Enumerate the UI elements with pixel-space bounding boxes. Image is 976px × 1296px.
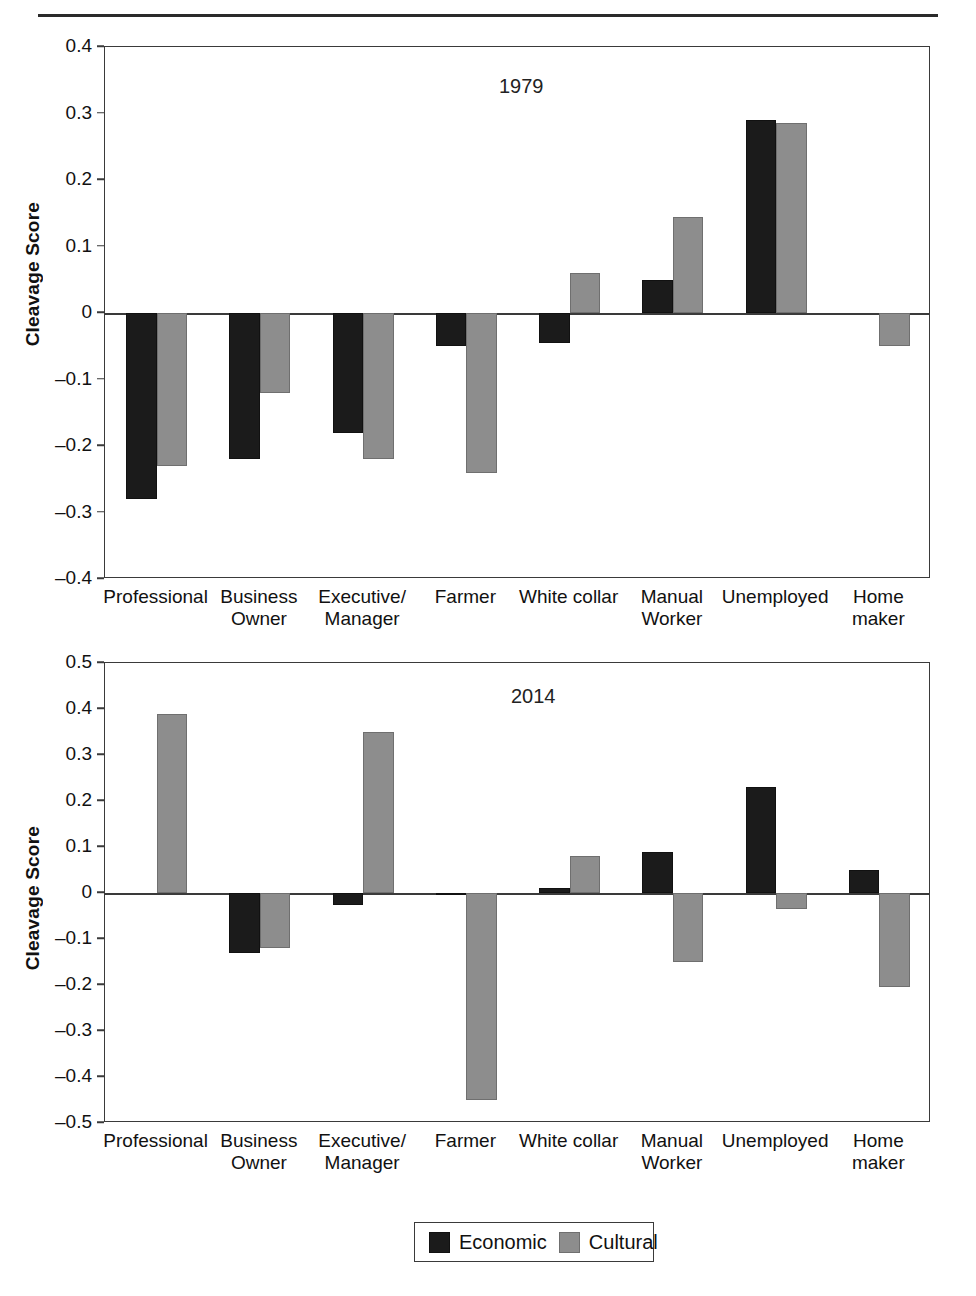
- y-tick-label: 0.1: [0, 835, 92, 857]
- y-tick-mark: [97, 983, 104, 985]
- x-axis-category-label: Home maker: [814, 1130, 942, 1175]
- y-axis-label-1979: Cleavage Score: [22, 202, 44, 346]
- y-tick-mark: [97, 753, 104, 755]
- bar-cultural: [673, 893, 703, 962]
- bar-cultural: [466, 893, 496, 1100]
- plot-area-2014: 2014: [104, 662, 930, 1122]
- bar-cultural: [570, 856, 600, 893]
- bar-economic: [436, 313, 466, 346]
- y-tick-label: –0.3: [0, 1019, 92, 1041]
- bar-cultural: [466, 313, 496, 473]
- bar-economic: [849, 870, 879, 893]
- bar-economic: [333, 893, 363, 905]
- y-tick-label: 0.4: [0, 35, 92, 57]
- y-tick-mark: [97, 937, 104, 939]
- y-tick-mark: [97, 112, 104, 114]
- bar-cultural: [157, 313, 187, 466]
- bar-cultural: [157, 714, 187, 893]
- figure-page: Cleavage Score 1979 0.40.30.20.10–0.1–0.…: [0, 0, 976, 1296]
- legend: Economic Cultural: [414, 1222, 654, 1262]
- bars-container-1979: [105, 47, 929, 577]
- y-tick-label: 0: [0, 301, 92, 323]
- legend-swatch-economic-icon: [429, 1232, 450, 1253]
- chart-panel-2014: Cleavage Score 2014 0.50.40.30.20.10–0.1…: [0, 650, 976, 1230]
- y-tick-mark: [97, 378, 104, 380]
- bar-cultural: [776, 123, 806, 313]
- bar-economic: [436, 893, 466, 895]
- y-tick-label: –0.1: [0, 368, 92, 390]
- y-tick-label: 0.2: [0, 168, 92, 190]
- y-tick-label: –0.3: [0, 501, 92, 523]
- bar-cultural: [363, 732, 393, 893]
- bar-cultural: [363, 313, 393, 459]
- y-tick-label: –0.4: [0, 1065, 92, 1087]
- bar-cultural: [879, 313, 909, 346]
- bar-economic: [642, 852, 672, 893]
- bar-economic: [539, 888, 569, 893]
- y-tick-label: 0.3: [0, 743, 92, 765]
- bar-cultural: [776, 893, 806, 909]
- y-tick-mark: [97, 845, 104, 847]
- y-tick-mark: [97, 311, 104, 313]
- y-tick-label: –0.2: [0, 973, 92, 995]
- page-top-rule: [38, 14, 938, 17]
- legend-label-cultural: Cultural: [589, 1231, 658, 1254]
- x-axis-category-label: Home maker: [814, 586, 942, 631]
- y-tick-label: 0.2: [0, 789, 92, 811]
- y-tick-mark: [97, 45, 104, 47]
- chart-panel-1979: Cleavage Score 1979 0.40.30.20.10–0.1–0.…: [0, 34, 976, 634]
- bars-container-2014: [105, 663, 929, 1121]
- bar-economic: [642, 280, 672, 313]
- bar-cultural: [260, 893, 290, 948]
- y-tick-mark: [97, 661, 104, 663]
- y-tick-mark: [97, 1029, 104, 1031]
- legend-swatch-cultural-icon: [559, 1232, 580, 1253]
- bar-cultural: [673, 217, 703, 313]
- bar-cultural: [570, 273, 600, 313]
- y-tick-mark: [97, 511, 104, 513]
- y-tick-mark: [97, 178, 104, 180]
- y-tick-mark: [97, 707, 104, 709]
- y-tick-label: 0.5: [0, 651, 92, 673]
- legend-item-economic: Economic: [429, 1231, 547, 1254]
- y-tick-label: 0.4: [0, 697, 92, 719]
- y-tick-label: –0.4: [0, 567, 92, 589]
- plot-area-1979: 1979: [104, 46, 930, 578]
- bar-economic: [539, 313, 569, 343]
- y-tick-mark: [97, 1121, 104, 1123]
- y-tick-mark: [97, 245, 104, 247]
- y-tick-label: 0.1: [0, 235, 92, 257]
- bar-economic: [126, 313, 156, 499]
- y-tick-label: 0.3: [0, 102, 92, 124]
- bar-cultural: [879, 893, 909, 987]
- bar-economic: [746, 120, 776, 313]
- y-tick-mark: [97, 799, 104, 801]
- y-tick-label: 0: [0, 881, 92, 903]
- y-tick-label: –0.1: [0, 927, 92, 949]
- y-tick-label: –0.5: [0, 1111, 92, 1133]
- bar-economic: [333, 313, 363, 433]
- y-tick-label: –0.2: [0, 434, 92, 456]
- bar-economic: [229, 313, 259, 459]
- y-tick-mark: [97, 577, 104, 579]
- y-tick-mark: [97, 891, 104, 893]
- bar-economic: [229, 893, 259, 953]
- bar-cultural: [260, 313, 290, 393]
- bar-economic: [746, 787, 776, 893]
- y-tick-mark: [97, 1075, 104, 1077]
- legend-item-cultural: Cultural: [559, 1231, 658, 1254]
- legend-label-economic: Economic: [459, 1231, 547, 1254]
- y-tick-mark: [97, 444, 104, 446]
